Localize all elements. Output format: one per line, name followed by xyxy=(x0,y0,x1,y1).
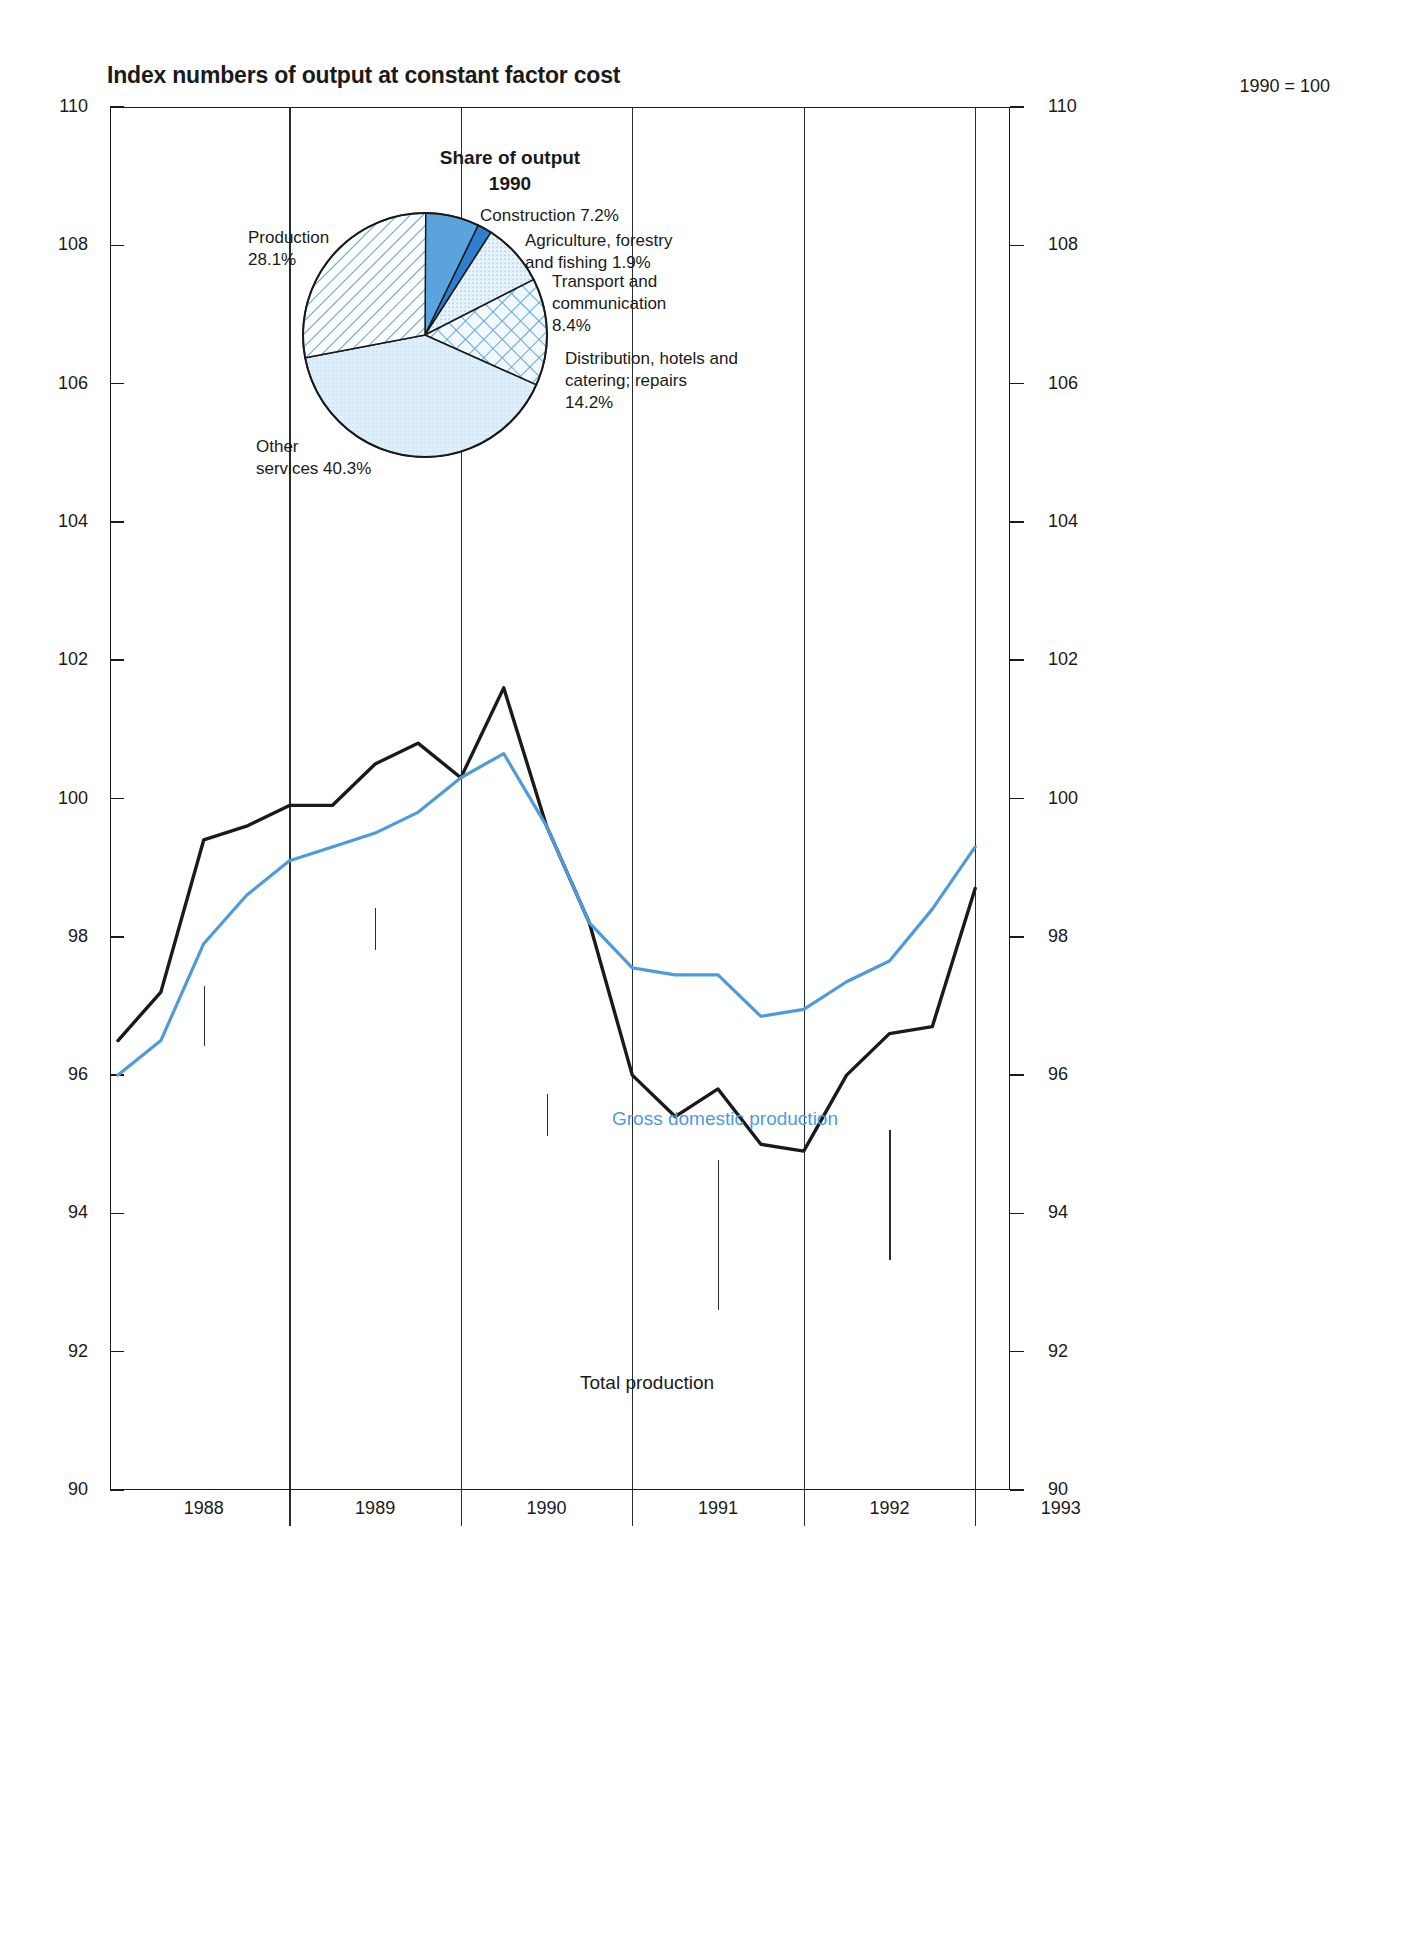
pie-label-agriculture: Agriculture, forestry and fishing 1.9% xyxy=(525,230,755,274)
y-axis-tick-right xyxy=(1010,1351,1024,1353)
y-axis-label-left: 102 xyxy=(28,649,88,670)
series-label-gross-domestic-production: Gross domestic production xyxy=(612,1108,838,1130)
x-axis-label-1993: 1993 xyxy=(1016,1498,1106,1519)
y-axis-label-right: 104 xyxy=(1048,511,1108,532)
y-axis-label-left: 106 xyxy=(28,373,88,394)
y-axis-tick-right xyxy=(1010,106,1024,108)
quarter-marker xyxy=(375,908,376,950)
y-axis-label-right: 108 xyxy=(1048,234,1108,255)
y-axis-tick-left xyxy=(110,659,124,661)
y-axis-tick-right xyxy=(1010,521,1024,523)
y-axis-tick-left xyxy=(110,798,124,800)
quarter-marker xyxy=(718,1160,719,1310)
y-axis-label-right: 94 xyxy=(1048,1202,1108,1223)
y-axis-tick-left xyxy=(110,1351,124,1353)
y-axis-tick-left xyxy=(110,383,124,385)
y-axis-label-left: 110 xyxy=(28,96,88,117)
y-axis-label-right: 98 xyxy=(1048,926,1108,947)
y-axis-label-right: 110 xyxy=(1048,96,1108,117)
y-axis-tick-right xyxy=(1010,659,1024,661)
y-axis-tick-right xyxy=(1010,798,1024,800)
quarter-marker xyxy=(547,1094,548,1136)
x-axis-label-1990: 1990 xyxy=(502,1498,592,1519)
y-axis-label-left: 108 xyxy=(28,234,88,255)
y-axis-tick-right xyxy=(1010,936,1024,938)
pie-inset: Share of output 1990 Production 28.1% Co… xyxy=(240,140,800,500)
y-axis-label-left: 96 xyxy=(28,1064,88,1085)
chart-page: Index numbers of output at constant fact… xyxy=(0,0,1415,1949)
pie-title-main: Share of output xyxy=(440,147,580,168)
y-axis-tick-left xyxy=(110,1074,124,1076)
y-axis-label-left: 98 xyxy=(28,926,88,947)
quarter-marker xyxy=(204,986,205,1046)
y-axis-label-right: 106 xyxy=(1048,373,1108,394)
pie-title-year: 1990 xyxy=(360,171,660,197)
x-axis-label-1991: 1991 xyxy=(673,1498,763,1519)
y-axis-label-right: 100 xyxy=(1048,788,1108,809)
pie-title: Share of output 1990 xyxy=(360,145,660,196)
x-axis-label-1988: 1988 xyxy=(159,1498,249,1519)
pie-label-construction: Construction 7.2% xyxy=(480,205,710,227)
y-axis-tick-right xyxy=(1010,383,1024,385)
y-axis-label-right: 90 xyxy=(1048,1479,1108,1500)
y-axis-tick-right xyxy=(1010,1489,1024,1491)
year-divider xyxy=(804,107,805,1526)
y-axis-label-left: 104 xyxy=(28,511,88,532)
y-axis-label-left: 90 xyxy=(28,1479,88,1500)
y-axis-label-right: 92 xyxy=(1048,1341,1108,1362)
pie-label-distribution: Distribution, hotels and catering; repai… xyxy=(565,348,785,413)
index-base-note: 1990 = 100 xyxy=(1150,76,1330,97)
y-axis-tick-left xyxy=(110,1489,124,1491)
year-divider xyxy=(975,107,976,1526)
y-axis-label-left: 92 xyxy=(28,1341,88,1362)
pie-label-other-services: Other services 40.3% xyxy=(256,436,476,480)
y-axis-label-left: 100 xyxy=(28,788,88,809)
y-axis-label-right: 102 xyxy=(1048,649,1108,670)
y-axis-tick-right xyxy=(1010,245,1024,247)
y-axis-tick-left xyxy=(110,521,124,523)
y-axis-label-left: 94 xyxy=(28,1202,88,1223)
pie-label-production: Production 28.1% xyxy=(248,227,398,271)
y-axis-tick-right xyxy=(1010,1213,1024,1215)
y-axis-label-right: 96 xyxy=(1048,1064,1108,1085)
y-axis-tick-left xyxy=(110,936,124,938)
x-axis-label-1992: 1992 xyxy=(844,1498,934,1519)
y-axis-tick-left xyxy=(110,106,124,108)
y-axis-tick-right xyxy=(1010,1074,1024,1076)
series-label-total-production: Total production xyxy=(580,1372,714,1394)
y-axis-tick-left xyxy=(110,1213,124,1215)
y-axis-tick-left xyxy=(110,245,124,247)
pie-label-transport: Transport and communication 8.4% xyxy=(552,271,752,336)
page-title: Index numbers of output at constant fact… xyxy=(107,62,620,89)
quarter-marker xyxy=(889,1130,890,1260)
x-axis-label-1989: 1989 xyxy=(330,1498,420,1519)
